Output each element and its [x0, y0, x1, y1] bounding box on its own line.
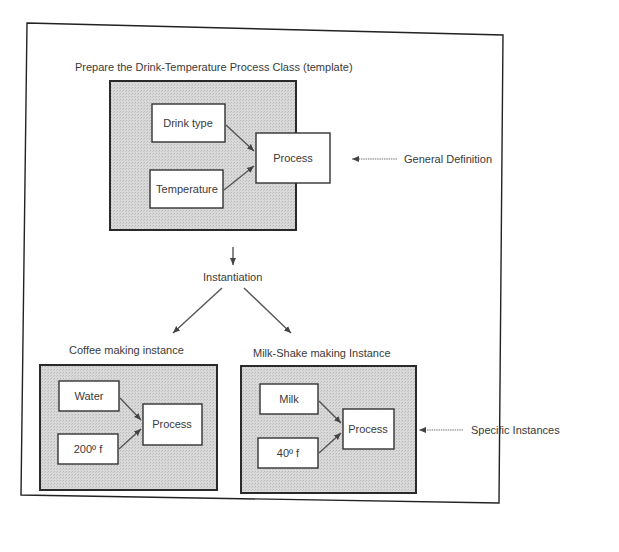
diagram-canvas: Prepare the Drink-Temperature Process Cl…	[0, 0, 619, 552]
coffee-input-temperature: 200º f	[58, 434, 118, 464]
coffee-input-water: Water	[59, 381, 119, 411]
instantiation-label: Instantiation	[203, 271, 262, 283]
coffee-process: Process	[143, 404, 202, 445]
node-label: Process	[273, 152, 313, 164]
node-label: 40º f	[277, 447, 300, 459]
milkshake-input-temperature: 40º f	[258, 438, 318, 468]
node-label: Milk	[279, 393, 299, 405]
node-label: 200º f	[74, 443, 103, 455]
specific-instances-label: Specific Instances	[471, 424, 560, 436]
template-input-temperature: Temperature	[150, 170, 223, 208]
milkshake-instance-group: Milk 40º f Process	[241, 366, 416, 493]
node-label: Water	[75, 390, 104, 402]
milkshake-process: Process	[343, 409, 394, 449]
milkshake-instance-title: Milk-Shake making Instance	[253, 347, 391, 359]
template-input-drink-type: Drink type	[152, 104, 225, 142]
coffee-instance-group: Water 200º f Process	[40, 365, 217, 490]
template-process: Process	[256, 133, 330, 183]
general-definition-label: General Definition	[404, 153, 492, 165]
node-label: Drink type	[163, 117, 213, 129]
node-label: Process	[348, 423, 388, 435]
node-label: Process	[152, 418, 192, 430]
template-class-group: Drink type Temperature Process	[110, 81, 330, 230]
node-label: Temperature	[156, 183, 218, 195]
coffee-instance-title: Coffee making instance	[69, 344, 184, 356]
diagram-title: Prepare the Drink-Temperature Process Cl…	[75, 61, 353, 73]
milkshake-input-milk: Milk	[260, 384, 318, 414]
